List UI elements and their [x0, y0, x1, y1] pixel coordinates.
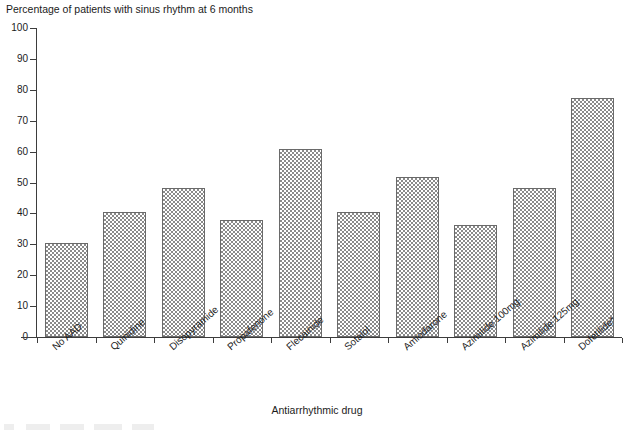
x-axis-tick [622, 338, 623, 343]
y-axis-tick-label: 80 [2, 85, 28, 95]
y-axis-tick [30, 244, 36, 245]
y-axis-tick-label: 10 [2, 301, 28, 311]
x-axis-tick [330, 338, 331, 343]
y-axis-tick [30, 121, 36, 122]
y-axis-tick [30, 275, 36, 276]
y-axis-tick-label: 90 [2, 54, 28, 64]
x-axis-tick [213, 338, 214, 343]
y-axis-tick-label: 50 [2, 178, 28, 188]
bar-series [37, 28, 622, 337]
x-axis-tick [388, 338, 389, 343]
y-axis-tick-label: 60 [2, 147, 28, 157]
bar [279, 149, 322, 337]
x-axis-tick [505, 338, 506, 343]
x-axis-tick [271, 338, 272, 343]
y-axis-tick [30, 28, 36, 29]
y-axis-tick [30, 59, 36, 60]
x-axis-tick [154, 338, 155, 343]
y-axis-tick-label: 30 [2, 239, 28, 249]
y-axis-tick [30, 337, 36, 338]
y-axis-tick-label: 20 [2, 270, 28, 280]
cropped-caption-remnant [4, 424, 154, 430]
bar [513, 188, 556, 337]
x-axis-tick [37, 338, 38, 343]
bar [45, 243, 88, 337]
x-axis-title: Antiarrhythmic drug [0, 404, 634, 416]
y-axis-tick [30, 90, 36, 91]
x-axis-tick [96, 338, 97, 343]
y-axis-tick [30, 183, 36, 184]
bar [337, 212, 380, 337]
y-axis-tick-label: 100 [2, 23, 28, 33]
y-axis-labels: 0102030405060708090100 [0, 0, 28, 432]
y-axis-tick-label: 70 [2, 116, 28, 126]
y-axis-tick [30, 306, 36, 307]
x-axis-tick [564, 338, 565, 343]
bar [162, 188, 205, 337]
y-axis-tick [30, 213, 36, 214]
y-axis-tick-label: 40 [2, 208, 28, 218]
y-axis-tick [30, 152, 36, 153]
x-axis-tick [447, 338, 448, 343]
bar [396, 177, 439, 337]
page-title: Percentage of patients with sinus rhythm… [6, 3, 253, 15]
